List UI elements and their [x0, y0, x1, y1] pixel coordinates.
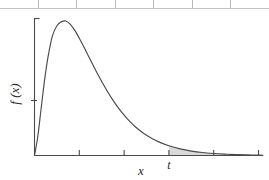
x-axis-label: x — [137, 163, 144, 178]
density-plot: f (x) x t — [0, 9, 269, 180]
plot-svg: f (x) x t — [0, 9, 269, 180]
table-cell — [39, 0, 78, 8]
table-cell — [0, 0, 39, 8]
table-cell — [231, 0, 269, 8]
t-marker-label: t — [167, 158, 171, 172]
table-cell — [154, 0, 193, 8]
table-cell — [193, 0, 232, 8]
table-cell — [77, 0, 116, 8]
density-curve — [35, 21, 264, 156]
y-axis-label: f (x) — [7, 83, 22, 104]
table-cell — [116, 0, 155, 8]
